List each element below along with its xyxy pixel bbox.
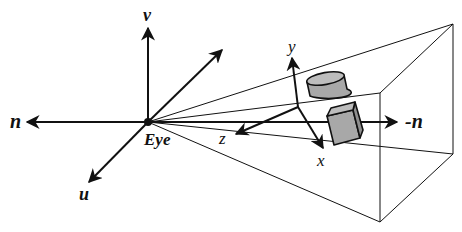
diagram-canvas: n -n v u Eye y x z [0, 0, 462, 232]
label-x: x [316, 151, 325, 170]
label-n: n [10, 110, 21, 132]
label-y: y [286, 37, 296, 56]
cube-object [327, 102, 363, 145]
diagonal-axis [148, 50, 222, 122]
label-u: u [79, 184, 89, 204]
eye-point [144, 118, 152, 126]
x-axis [298, 107, 323, 148]
z-axis [236, 107, 298, 134]
label-eye: Eye [143, 130, 171, 149]
label-z: z [218, 129, 226, 148]
label-neg-n: -n [405, 110, 423, 132]
camera-axes [236, 58, 323, 148]
cylinder-object [306, 69, 352, 98]
label-v: v [143, 5, 152, 25]
y-axis [292, 58, 298, 107]
frustum-ray-top [148, 24, 453, 122]
u-axis [89, 122, 148, 182]
